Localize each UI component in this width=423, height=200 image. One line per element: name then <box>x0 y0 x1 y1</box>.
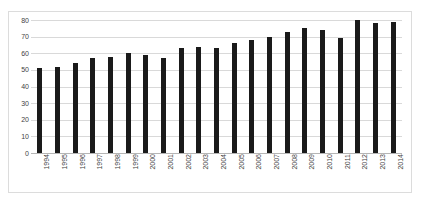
bars-layer <box>31 20 402 153</box>
y-axis-tick-label: 20 <box>8 116 29 123</box>
bar <box>126 53 131 153</box>
bar <box>196 47 201 153</box>
x-axis-tick-label: 2007 <box>273 154 280 190</box>
bar <box>391 22 396 153</box>
x-axis-tick-label: 2012 <box>361 154 368 190</box>
x-axis: 1994199519961997199819992000200120022003… <box>31 156 402 192</box>
y-axis-tick-label: 10 <box>8 133 29 140</box>
x-axis-tick-label: 2002 <box>185 154 192 190</box>
bar <box>73 63 78 153</box>
x-axis-tick-label: 1999 <box>132 154 139 190</box>
bar <box>355 20 360 153</box>
bar <box>90 58 95 153</box>
bar <box>37 68 42 153</box>
x-axis-tick-label: 2013 <box>379 154 386 190</box>
bar <box>179 48 184 153</box>
x-axis-tick-label: 1997 <box>96 154 103 190</box>
y-axis-tick-label: 70 <box>8 33 29 40</box>
x-axis-tick-label: 2010 <box>326 154 333 190</box>
bar <box>214 48 219 153</box>
x-axis-tick-label: 2009 <box>308 154 315 190</box>
x-axis-tick-label: 1998 <box>114 154 121 190</box>
x-axis-tick-label: 2001 <box>167 154 174 190</box>
y-axis-tick-label: 30 <box>8 100 29 107</box>
y-axis-tick-label: 80 <box>8 17 29 24</box>
x-axis-tick-label: 1995 <box>61 154 68 190</box>
y-axis: 80706050403020100 <box>8 20 29 153</box>
x-axis-tick-label: 2014 <box>397 154 404 190</box>
bar <box>161 58 166 153</box>
x-axis-tick-label: 2004 <box>220 154 227 190</box>
chart-title <box>10 0 410 5</box>
bar <box>249 40 254 153</box>
bar-chart-figure: 80706050403020100 1994199519961997199819… <box>0 0 423 200</box>
bar <box>338 38 343 153</box>
bar <box>320 30 325 153</box>
x-axis-tick-label: 2003 <box>202 154 209 190</box>
x-axis-tick-label: 2011 <box>344 154 351 190</box>
y-axis-tick-label: 50 <box>8 66 29 73</box>
x-axis-tick-label: 2005 <box>238 154 245 190</box>
x-axis-tick-label: 2000 <box>149 154 156 190</box>
y-axis-tick-label: 0 <box>8 150 29 157</box>
x-axis-tick-label: 1994 <box>43 154 50 190</box>
bar <box>285 32 290 153</box>
bar <box>373 23 378 153</box>
bar <box>302 28 307 153</box>
y-axis-tick-label: 60 <box>8 50 29 57</box>
bar <box>108 57 113 153</box>
y-axis-tick-label: 40 <box>8 83 29 90</box>
x-axis-tick-label: 2006 <box>255 154 262 190</box>
x-axis-tick-label: 1996 <box>79 154 86 190</box>
bar <box>143 55 148 153</box>
bar <box>267 37 272 153</box>
bar <box>55 67 60 153</box>
bar <box>232 43 237 153</box>
x-axis-tick-label: 2008 <box>291 154 298 190</box>
